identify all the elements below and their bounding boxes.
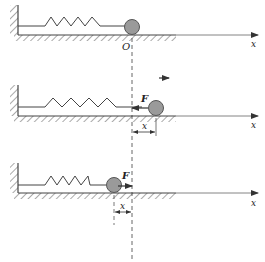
force-label: F	[121, 170, 130, 181]
wall-hatching	[10, 5, 18, 35]
spring-oscillator-diagram: x O x F x x F	[0, 0, 265, 262]
ground-hatching	[14, 116, 176, 122]
spring	[18, 98, 142, 107]
wall-hatching	[10, 163, 18, 193]
panel-stretched: x F x	[10, 85, 258, 136]
panel-compressed: x F x	[10, 163, 258, 225]
origin-label: O	[122, 41, 130, 52]
x-axis-label: x	[251, 39, 256, 49]
mass-ball	[125, 20, 140, 35]
ground-hatching	[14, 35, 176, 41]
x-axis-label: x	[251, 120, 256, 130]
spring	[18, 17, 125, 26]
mass-ball	[107, 178, 122, 193]
spring	[18, 176, 106, 185]
mass-ball	[149, 101, 164, 116]
ground-hatching	[14, 193, 176, 199]
panel-equilibrium: x O	[10, 5, 258, 52]
wall-hatching	[10, 85, 18, 116]
force-label: F	[140, 93, 149, 104]
x-axis-label: x	[251, 198, 256, 208]
displacement-label: x	[120, 201, 125, 211]
displacement-label: x	[142, 121, 147, 131]
